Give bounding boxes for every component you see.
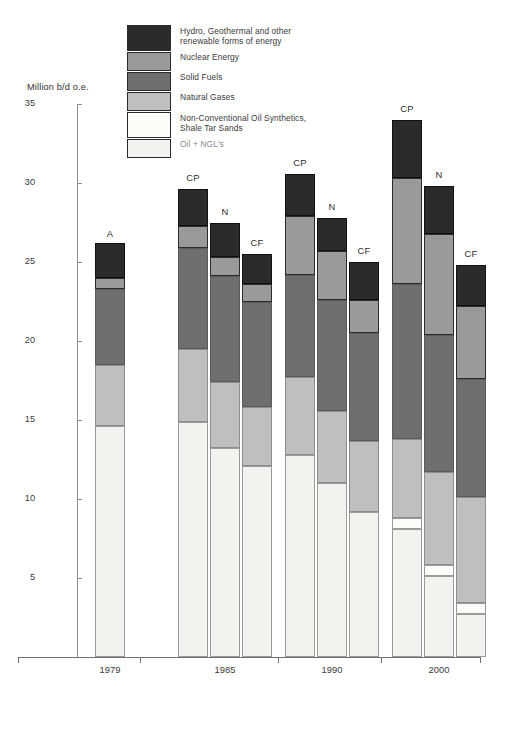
energy-outlook-stacked-bar-chart: Hydro, Geothermal and other renewable fo… [0,0,514,734]
x-axis-tick [278,657,279,663]
bar-segment [178,422,208,657]
plot-area: ACPNCFCPNCFCPNCF1979198519902000 [0,0,514,734]
bar-segment [392,178,422,284]
bar-segment [392,518,422,529]
bar-1990-cf [349,262,379,657]
bar-segment [424,576,454,657]
bar-segment [242,407,272,465]
bar-segment [285,377,315,454]
x-axis-label-2000: 2000 [409,664,469,675]
bar-segment [95,365,125,427]
bar-segment [456,603,486,614]
bar-segment [392,439,422,518]
bar-annotation-cp: CP [173,172,213,183]
x-axis-label-1990: 1990 [302,664,362,675]
bar-segment [424,335,454,472]
bar-segment [178,349,208,422]
bar-annotation-cf: CF [237,237,277,248]
bar-segment [317,251,347,300]
bar-segment [95,243,125,278]
bar-1985-n [210,223,240,658]
bar-segment [349,512,379,657]
bar-annotation-n: N [419,169,459,180]
bar-segment [349,262,379,300]
bar-segment [242,302,272,408]
bar-2000-n [424,186,454,657]
bar-1990-cp [285,174,315,657]
x-axis-tick [140,657,141,663]
bar-segment [285,455,315,657]
bar-segment [456,614,486,657]
bar-1979-a [95,245,125,657]
bar-annotation-n: N [205,206,245,217]
bar-segment [285,275,315,378]
bar-segment [178,189,208,225]
bar-segment [242,466,272,657]
x-axis-tick [480,657,481,663]
bar-segment [349,333,379,440]
bar-segment [210,276,240,382]
bar-segment [424,565,454,576]
bar-1985-cf [242,254,272,657]
x-axis-tick [18,657,19,663]
bar-segment [178,226,208,248]
bar-segment [210,448,240,657]
bar-annotation-cf: CF [451,248,491,259]
bar-segment [456,306,486,379]
bar-1990-n [317,218,347,657]
bar-segment [424,234,454,335]
bar-segment [242,254,272,284]
bar-segment [317,300,347,411]
x-axis-label-1979: 1979 [80,664,140,675]
bar-segment [242,284,272,301]
bar-annotation-a: A [90,228,130,239]
bar-annotation-n: N [312,201,352,212]
bar-segment [317,411,347,484]
bar-2000-cp [392,120,422,657]
bar-segment [95,289,125,365]
bar-2000-cf [456,265,486,657]
bar-segment [95,426,125,657]
bar-segment [424,186,454,233]
bar-segment [95,278,125,289]
bar-segment [317,218,347,251]
bar-segment [317,483,347,657]
bar-segment [178,248,208,349]
bar-annotation-cp: CP [387,103,427,114]
x-axis-label-1985: 1985 [195,664,255,675]
x-axis-tick [381,657,382,663]
bar-segment [456,379,486,498]
bar-segment [456,497,486,603]
bar-annotation-cp: CP [280,157,320,168]
bar-segment [210,382,240,448]
bar-segment [349,300,379,333]
bar-segment [456,265,486,306]
bar-segment [285,216,315,274]
bar-segment [392,529,422,657]
bar-segment [210,223,240,258]
bar-segment [424,472,454,565]
bar-segment [285,174,315,217]
bar-segment [392,284,422,439]
bar-1985-cp [178,189,208,657]
bar-segment [392,120,422,178]
bar-segment [349,441,379,512]
bar-segment [210,257,240,276]
bar-annotation-cf: CF [344,245,384,256]
